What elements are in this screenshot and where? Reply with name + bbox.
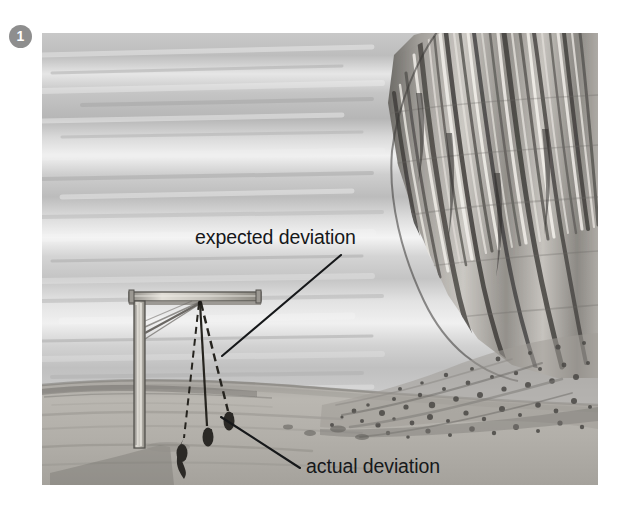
annotation-label-actual-deviation: actual deviation — [306, 456, 440, 477]
figure-number-badge: 1 — [9, 25, 32, 48]
beam-right-cap — [256, 290, 261, 303]
figure-panel: 1 — [0, 0, 626, 517]
suspension-point — [198, 301, 202, 305]
frame-beam — [129, 292, 261, 305]
frame-post — [134, 301, 145, 448]
beam-left-cap — [129, 290, 134, 303]
illustration-image — [42, 33, 598, 485]
annotation-label-expected-deviation: expected deviation — [195, 227, 356, 248]
illustration-canvas — [42, 33, 598, 485]
